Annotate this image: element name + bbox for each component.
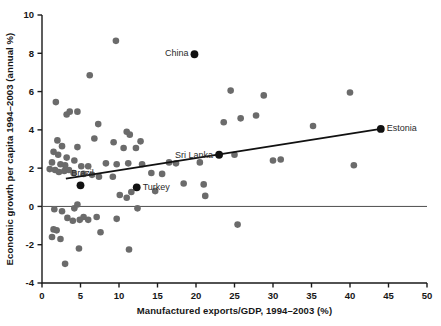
data-point: [59, 143, 66, 150]
data-point: [63, 154, 70, 161]
data-point: [126, 131, 133, 138]
chart-canvas: -4-2024681005101520253035404550ChinaSri …: [0, 0, 441, 326]
data-point: [310, 123, 317, 130]
data-point: [53, 227, 60, 234]
data-point: [113, 216, 120, 223]
x-axis-tick-label: 30: [268, 290, 279, 301]
data-point: [110, 139, 117, 146]
data-point: [113, 161, 120, 168]
trendline: [66, 129, 381, 179]
point-label-china: China: [165, 48, 189, 58]
data-point: [57, 236, 64, 243]
data-point: [97, 229, 104, 236]
y-axis-tick-label: 4: [29, 124, 35, 135]
data-point: [270, 157, 277, 164]
y-axis-tick-label: 0: [29, 201, 34, 212]
plot-frame: [42, 15, 427, 283]
data-point: [123, 195, 130, 202]
data-point: [62, 261, 69, 268]
data-point: [148, 170, 155, 177]
data-point: [277, 156, 284, 163]
y-axis-tick-label: 2: [29, 163, 34, 174]
data-point: [202, 193, 209, 200]
x-axis-tick-label: 40: [345, 290, 356, 301]
data-point: [351, 162, 358, 169]
highlighted-data-point-sri-lanka: [215, 151, 223, 159]
data-point: [128, 189, 135, 196]
x-axis-tick-label: 25: [229, 290, 240, 301]
data-point: [133, 145, 140, 152]
data-point: [59, 208, 66, 215]
data-point: [237, 115, 244, 122]
x-axis-tick-label: 0: [39, 290, 44, 301]
point-label-turkey: Turkey: [143, 182, 171, 192]
data-point: [74, 201, 81, 208]
data-point: [103, 160, 110, 167]
y-axis-title: Economic growth per capita 1994–2003 (an…: [4, 33, 15, 266]
point-label-sri-lanka: Sri Lanka: [175, 150, 213, 160]
y-axis-tick-label: 10: [23, 9, 34, 20]
data-point: [227, 87, 234, 94]
data-point: [55, 151, 62, 158]
data-point: [95, 121, 102, 128]
data-point: [220, 119, 227, 126]
data-point: [347, 89, 354, 96]
data-point: [137, 138, 144, 145]
data-point: [54, 137, 61, 144]
data-point: [53, 99, 60, 106]
data-point: [51, 206, 58, 213]
data-point: [253, 112, 260, 119]
point-label-estonia: Estonia: [387, 123, 417, 133]
data-point: [74, 108, 81, 115]
data-point: [91, 135, 98, 142]
data-point: [234, 221, 241, 228]
highlighted-data-point-china: [191, 50, 199, 58]
data-point: [76, 245, 83, 252]
y-axis-tick-label: -2: [26, 239, 34, 250]
x-axis-tick-label: 45: [383, 290, 394, 301]
scatter-chart-figure: -4-2024681005101520253035404550ChinaSri …: [0, 0, 441, 326]
x-axis-tick-label: 20: [191, 290, 202, 301]
x-axis-tick-label: 15: [152, 290, 163, 301]
x-axis-tick-label: 50: [422, 290, 433, 301]
data-point: [116, 192, 123, 199]
data-point: [110, 173, 117, 180]
data-point: [197, 159, 204, 166]
data-point: [126, 246, 133, 253]
data-point: [49, 234, 56, 241]
highlighted-data-point-estonia: [377, 125, 385, 133]
data-point: [70, 217, 77, 224]
y-axis-tick-label: -4: [26, 277, 35, 288]
data-point: [200, 181, 207, 188]
x-axis-tick-label: 10: [114, 290, 125, 301]
data-point: [49, 159, 56, 166]
data-point: [86, 72, 93, 79]
data-point: [180, 180, 187, 187]
data-point: [85, 217, 92, 224]
data-point: [93, 214, 100, 221]
data-point: [71, 157, 78, 164]
data-point: [63, 111, 70, 118]
highlighted-data-point-turkey: [133, 183, 141, 191]
x-axis-tick-label: 35: [306, 290, 317, 301]
data-point: [134, 205, 141, 212]
x-axis-tick-label: 5: [78, 290, 84, 301]
data-point: [260, 92, 267, 99]
data-point: [159, 171, 166, 178]
point-label-brazil: Brazil: [71, 168, 94, 178]
data-point: [120, 145, 127, 152]
data-point: [113, 38, 120, 45]
y-axis-tick-label: 8: [29, 48, 34, 59]
highlighted-data-point-brazil: [77, 181, 85, 189]
data-point: [74, 144, 81, 151]
data-point: [125, 160, 132, 167]
x-axis-title: Manufactured exports/GDP, 1994–2003 (%): [137, 305, 332, 316]
y-axis-tick-label: 6: [29, 86, 34, 97]
